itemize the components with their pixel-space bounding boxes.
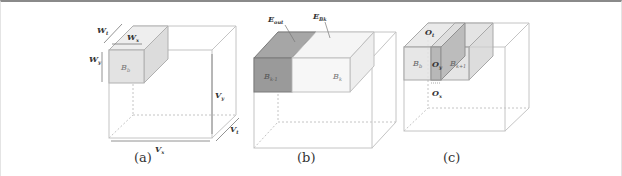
label-o-x: Ox bbox=[432, 88, 443, 99]
label-v-t: Vt bbox=[230, 124, 239, 135]
label-v-y: Vy bbox=[215, 90, 225, 102]
label-w-y: Wy bbox=[89, 54, 102, 66]
panel-a: Wt Wx Wy Bb Vy Vx Vt bbox=[89, 24, 239, 155]
panel-c: Ot Bb Oy Bk+1 Ox bbox=[404, 23, 529, 131]
panel-b: Eout EBk Bk-1 Bk bbox=[254, 11, 396, 148]
caption-b: (b) bbox=[297, 150, 315, 165]
block-b-cube bbox=[109, 26, 168, 83]
label-e-bk: EBk bbox=[312, 11, 327, 22]
label-w-t: Wt bbox=[97, 25, 109, 36]
label-e-out: Eout bbox=[267, 14, 284, 25]
caption-a: (a) bbox=[134, 150, 152, 165]
caption-c: (c) bbox=[443, 150, 460, 165]
label-v-x: Vx bbox=[155, 144, 165, 155]
